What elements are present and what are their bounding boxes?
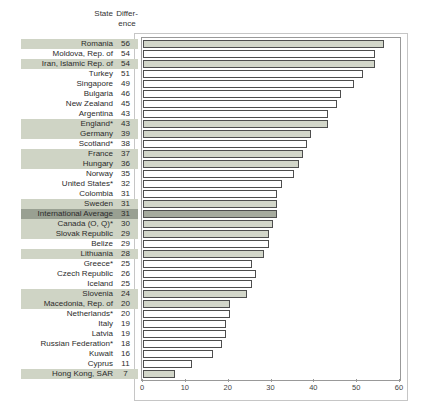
row-label: Greece* [21,259,113,269]
bar [143,50,375,58]
x-axis-tick-mark [271,379,272,382]
row-value: 39 [113,129,138,139]
bar [143,140,307,148]
bar [143,70,363,78]
bar [143,340,222,348]
bar [143,110,328,118]
bar [143,180,282,188]
bar-cell [142,119,400,129]
x-axis-tick-mark [356,379,357,382]
bar [143,310,230,318]
row-label-band: Russian Federation*18 [21,339,138,349]
difference-bar-chart: State Differ- ence Romania56Moldova, Rep… [0,0,423,411]
x-axis-tick-mark [313,379,314,382]
row-value: 26 [113,269,138,279]
bar [143,280,252,288]
row-value: 7 [113,369,138,379]
column-header-difference-line2: ence [112,19,142,29]
bar-cell [142,39,400,49]
bar [143,60,375,68]
bar [143,130,311,138]
bar [143,170,294,178]
bar-cell [142,249,400,259]
row-label: Latvia [21,329,113,339]
bar-cell [142,109,400,119]
chart-row: Belize29 [0,239,423,249]
bar [143,240,269,248]
row-label-band: Cyprus11 [21,359,138,369]
chart-row: Italy19 [0,319,423,329]
chart-rows: Romania56Moldova, Rep. of54Iran, Islamic… [0,39,423,379]
row-value: 30 [113,219,138,229]
row-label: United States* [21,179,113,189]
row-label-band: International Average31 [21,209,138,219]
row-value: 46 [113,89,138,99]
bar-cell [142,219,400,229]
row-label-band: Kuwait16 [21,349,138,359]
row-label: Singapore [21,79,113,89]
bar-cell [142,79,400,89]
chart-row: Colombia31 [0,189,423,199]
row-value: 31 [113,189,138,199]
row-label: Canada (O, Q)* [21,219,113,229]
bar [143,230,269,238]
chart-row: International Average31 [0,209,423,219]
bar-cell [142,59,400,69]
row-label-band: Norway35 [21,169,138,179]
row-label-band: Hungary36 [21,159,138,169]
row-label-band: Germany39 [21,129,138,139]
chart-row: England*43 [0,119,423,129]
x-axis-tick-label: 50 [344,383,368,392]
row-value: 32 [113,179,138,189]
row-value: 25 [113,259,138,269]
row-label-band: Czech Republic26 [21,269,138,279]
bar [143,120,328,128]
row-label-band: Macedonia, Rep. of20 [21,299,138,309]
bar-cell [142,259,400,269]
row-value: 36 [113,159,138,169]
row-value: 25 [113,279,138,289]
bar [143,210,277,218]
chart-row: Slovak Republic29 [0,229,423,239]
row-value: 24 [113,289,138,299]
bar-cell [142,169,400,179]
chart-row: Hong Kong, SAR7 [0,369,423,379]
column-header-difference: Differ- ence [112,9,142,29]
bar-cell [142,149,400,159]
row-value: 31 [113,199,138,209]
chart-row: Latvia19 [0,329,423,339]
row-label: Slovenia [21,289,113,299]
row-label-band: Singapore49 [21,79,138,89]
bar-cell [142,209,400,219]
row-value: 29 [113,239,138,249]
x-axis-tick-label: 0 [130,383,154,392]
row-label: New Zealand [21,99,113,109]
bar [143,370,175,378]
chart-row: Kuwait16 [0,349,423,359]
bar-cell [142,129,400,139]
row-label: Slovak Republic [21,229,113,239]
bar [143,100,337,108]
row-label: Romania [21,39,113,49]
row-value: 37 [113,149,138,159]
bar-cell [142,359,400,369]
row-label: Russian Federation* [21,339,113,349]
bar [143,330,226,338]
row-label: International Average [21,209,113,219]
chart-row: Romania56 [0,39,423,49]
row-value: 31 [113,209,138,219]
row-label-band: Scotland*38 [21,139,138,149]
row-label-band: Iceland25 [21,279,138,289]
chart-row: Czech Republic26 [0,269,423,279]
row-value: 19 [113,319,138,329]
bar-cell [142,279,400,289]
row-label: Cyprus [21,359,113,369]
row-label: Italy [21,319,113,329]
bar [143,80,354,88]
bar [143,150,303,158]
bar [143,290,247,298]
row-label-band: England*43 [21,119,138,129]
chart-row: France37 [0,149,423,159]
chart-row: Bulgaria46 [0,89,423,99]
row-label: Moldova, Rep. of [21,49,113,59]
